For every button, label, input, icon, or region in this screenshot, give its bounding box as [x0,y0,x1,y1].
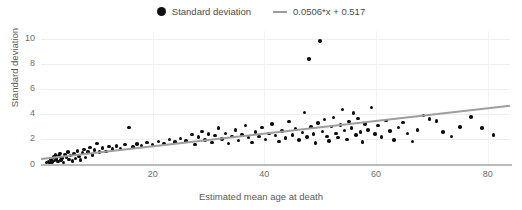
data-point [58,152,62,156]
y-axis-title: Standard deviation [9,8,20,128]
data-point [345,138,349,142]
data-point [354,133,358,137]
data-point [193,143,197,147]
gridline-vertical [488,31,489,164]
data-point [469,115,473,119]
data-point [168,138,172,142]
data-point [341,108,345,112]
data-point [416,128,420,132]
gridline-horizontal [41,89,510,90]
gridline-horizontal [41,139,510,140]
data-point [95,142,99,146]
data-point [84,156,88,160]
data-point [277,140,281,144]
data-point [291,133,295,137]
x-axis-line [41,164,512,166]
data-point [71,159,75,163]
data-point [458,125,462,129]
legend-item-trendline[interactable]: 0.0506*x + 0.517 [273,6,365,17]
legend-label-standard-deviation: Standard deviation [172,6,251,17]
data-point [480,126,484,130]
data-point [361,140,365,144]
data-point [274,134,278,138]
data-point [115,144,119,148]
data-point [392,138,396,142]
data-point [127,126,131,130]
data-point [450,135,454,139]
data-point [314,141,318,145]
plot-area [41,31,510,164]
data-point [284,136,288,140]
data-point [376,124,380,128]
data-point [325,135,329,139]
data-point [145,141,149,145]
x-tick-label: 20 [133,170,173,179]
x-axis-title: Estimated mean age at death [0,191,522,202]
data-point [411,140,415,144]
data-point [401,121,405,125]
data-point [428,117,432,121]
data-point [370,106,374,110]
data-point [217,126,221,130]
data-point [234,128,238,132]
data-point [388,129,392,133]
data-point [76,149,80,153]
trendline-segment [41,104,510,159]
gridline-vertical [376,31,377,164]
data-point [297,138,301,142]
data-point [316,121,320,125]
chart-legend: Standard deviation 0.0506*x + 0.517 [0,6,522,17]
data-point [305,135,309,139]
data-point [79,158,83,162]
data-point [264,138,268,142]
data-point [441,130,445,134]
data-point [250,141,254,145]
data-point [334,132,338,136]
data-point [397,126,401,130]
data-point [157,140,161,144]
data-point [318,39,322,43]
data-point [207,132,211,136]
data-point [366,128,370,132]
data-point [227,142,231,146]
data-point [88,146,92,150]
data-point [237,139,241,143]
data-point [91,153,95,157]
data-point [301,131,305,135]
data-point [224,132,228,136]
data-point [435,119,439,123]
data-point [287,120,291,124]
data-point [213,134,217,138]
gridline-horizontal [41,39,510,40]
data-point [332,116,336,120]
legend-label-trendline: 0.0506*x + 0.517 [293,6,365,17]
scatter-chart: Standard deviation 0.0506*x + 0.517 0246… [0,0,522,210]
data-point [210,141,214,145]
data-point [356,117,360,121]
data-point [492,133,496,137]
data-point [190,133,194,137]
data-point [406,132,410,136]
data-point [373,132,377,136]
legend-line-icon [273,11,287,13]
legend-dot-icon [157,7,166,16]
data-point [244,124,248,128]
data-point [327,139,331,143]
data-point [343,129,347,133]
data-point [257,135,261,139]
data-point [123,143,127,147]
data-point [197,135,201,139]
data-point [323,118,327,122]
x-tick-label: 80 [468,170,508,179]
gridline-vertical [264,31,265,164]
data-point [359,130,363,134]
data-point [270,122,274,126]
x-tick-label: 60 [356,170,396,179]
data-point [350,126,354,130]
data-point [200,130,204,134]
data-point [312,132,316,136]
y-tick-label: 0 [0,160,35,169]
data-point [321,130,325,134]
x-tick-label: 40 [244,170,284,179]
legend-item-standard-deviation[interactable]: Standard deviation [157,6,251,17]
